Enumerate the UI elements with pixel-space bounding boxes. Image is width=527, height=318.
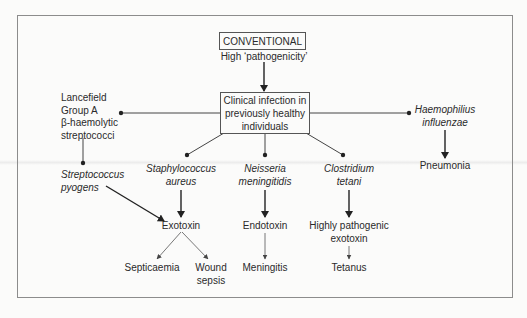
pathogenic-exotoxin-label: Highly pathogenic exotoxin: [304, 220, 394, 245]
lancefield-line-2: Group A: [61, 105, 118, 118]
septicaemia-label: Septicaemia: [117, 262, 187, 275]
node-dot: [263, 153, 267, 157]
meningitis-label: Meningitis: [230, 262, 300, 275]
lancefield-line-3: β-haemolytic: [61, 117, 118, 130]
pneumonia-label: Pneumonia: [405, 160, 485, 173]
endotoxin-label: Endotoxin: [230, 220, 300, 233]
node-dot: [185, 153, 189, 157]
exotoxin-label: Exotoxin: [146, 220, 216, 233]
high-pathogenicity-label: High ‘pathogenicity’: [204, 51, 324, 64]
lancefield-line-4: streptococci: [61, 130, 118, 143]
organism-species: tetani: [309, 176, 389, 189]
organism-species: influenzae: [405, 117, 485, 130]
wound-sepsis-label: Wound sepsis: [186, 262, 236, 287]
clinical-line-1: Clinical infection in: [224, 94, 307, 107]
tetanus-label: Tetanus: [314, 262, 384, 275]
conventional-label: CONVENTIONAL: [223, 35, 302, 48]
wound-sepsis-line-2: sepsis: [186, 275, 236, 288]
organism-species: aureus: [141, 176, 221, 189]
clinical-line-3: individuals: [242, 120, 289, 133]
organism-haemophilus: Haemophilius influenzae: [405, 104, 485, 129]
organism-name: Neisseria: [225, 163, 305, 176]
organism-staphylococcus: Staphylococcus aureus: [141, 163, 221, 188]
organism-name: Haemophilius: [405, 104, 485, 117]
node-dot: [81, 161, 85, 165]
organism-species: pyogens: [61, 182, 124, 195]
clinical-infection-box: Clinical infection in previously healthy…: [220, 92, 310, 134]
organism-name: Clostridium: [309, 163, 389, 176]
node-dot: [119, 111, 123, 115]
conventional-box: CONVENTIONAL: [219, 32, 306, 50]
organism-clostridium: Clostridium tetani: [309, 163, 389, 188]
organism-name: Staphylococcus: [141, 163, 221, 176]
lancefield-line-1: Lancefield: [61, 92, 118, 105]
clinical-line-2: previously healthy: [225, 107, 305, 120]
pathogenic-exotoxin-line-2: exotoxin: [304, 233, 394, 246]
node-dot: [341, 153, 345, 157]
organism-name: Streptococcus: [61, 169, 124, 182]
organism-neisseria: Neisseria meningitidis: [225, 163, 305, 188]
organism-streptococcus: Streptococcus pyogens: [61, 169, 124, 194]
wound-sepsis-line-1: Wound: [186, 262, 236, 275]
organism-species: meningitidis: [225, 176, 305, 189]
pathogenic-exotoxin-line-1: Highly pathogenic: [304, 220, 394, 233]
lancefield-group-label: Lancefield Group A β-haemolytic streptoc…: [61, 92, 118, 142]
